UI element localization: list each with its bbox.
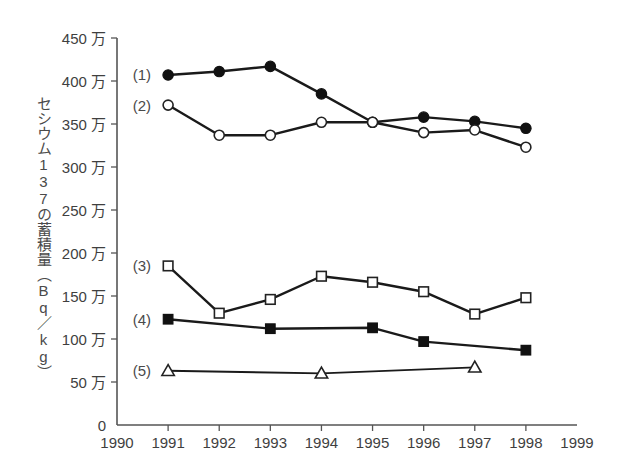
x-axis-tick-label: 1994 bbox=[305, 434, 338, 451]
marker-open-circle bbox=[316, 117, 326, 127]
caption-strip bbox=[0, 458, 630, 467]
x-axis-tick-label: 1998 bbox=[509, 434, 542, 451]
marker-open-square bbox=[214, 308, 224, 318]
marker-open-circle bbox=[163, 100, 173, 110]
x-axis-tick-label: 1991 bbox=[151, 434, 184, 451]
series-polyline bbox=[168, 319, 526, 350]
marker-open-circle bbox=[265, 130, 275, 140]
marker-open-square bbox=[163, 261, 173, 271]
marker-open-circle bbox=[470, 125, 480, 135]
marker-filled-circle bbox=[163, 70, 173, 80]
y-axis-tick-label: 100 万 bbox=[62, 331, 106, 348]
marker-open-circle bbox=[214, 130, 224, 140]
x-axis-tick-label: 1999 bbox=[560, 434, 593, 451]
chart-plot-area: 050 万100 万150 万200 万250 万300 万350 万400 万… bbox=[0, 0, 630, 467]
x-axis-tick-label: 1996 bbox=[407, 434, 440, 451]
series-3 bbox=[163, 261, 530, 319]
marker-open-square bbox=[521, 293, 531, 303]
x-axis-tick-label: 1992 bbox=[203, 434, 236, 451]
marker-open-square bbox=[470, 309, 480, 319]
legend-label-4: (4) bbox=[133, 311, 151, 328]
marker-filled-circle bbox=[521, 123, 531, 133]
legend-label-3: (3) bbox=[133, 257, 151, 274]
y-axis-tick-label: 400 万 bbox=[62, 73, 106, 90]
x-axis-tick-label: 1990 bbox=[100, 434, 133, 451]
marker-filled-square bbox=[163, 314, 173, 324]
chart-legend: (1)(2)(3)(4)(5) bbox=[133, 66, 151, 379]
y-axis-tick-group: 050 万100 万150 万200 万250 万300 万350 万400 万… bbox=[62, 30, 117, 434]
y-axis-tick-label: 450 万 bbox=[62, 30, 106, 47]
x-axis-tick-label: 1995 bbox=[356, 434, 389, 451]
legend-label-5: (5) bbox=[133, 362, 151, 379]
marker-filled-circle bbox=[418, 112, 428, 122]
marker-open-square bbox=[368, 277, 378, 287]
legend-label-2: (2) bbox=[133, 97, 151, 114]
y-axis-tick-label: 250 万 bbox=[62, 202, 106, 219]
y-axis-tick-label: 0 bbox=[98, 417, 106, 434]
legend-label-1: (1) bbox=[133, 66, 151, 83]
marker-filled-square bbox=[266, 324, 276, 334]
marker-open-square bbox=[317, 271, 327, 281]
marker-filled-circle bbox=[316, 89, 326, 99]
marker-open-circle bbox=[521, 142, 531, 152]
series-polyline bbox=[168, 266, 526, 314]
y-axis-tick-label: 200 万 bbox=[62, 245, 106, 262]
x-axis-tick-label: 1993 bbox=[254, 434, 287, 451]
chart-container: セシウム137の蓄積量（Bq／kg） 050 万100 万150 万200 万2… bbox=[0, 0, 630, 467]
y-axis-tick-label: 150 万 bbox=[62, 288, 106, 305]
marker-open-circle bbox=[419, 128, 429, 138]
marker-filled-circle bbox=[265, 61, 275, 71]
y-axis-tick-label: 50 万 bbox=[70, 374, 106, 391]
marker-filled-square bbox=[419, 337, 429, 347]
marker-filled-circle bbox=[214, 66, 224, 76]
series-5 bbox=[162, 361, 481, 378]
x-axis-tick-label: 1997 bbox=[458, 434, 491, 451]
marker-open-square bbox=[266, 295, 276, 305]
y-axis-tick-label: 350 万 bbox=[62, 116, 106, 133]
y-axis-tick-label: 300 万 bbox=[62, 159, 106, 176]
x-axis-tick-group: 1990199119921993199419951996199719981999 bbox=[100, 425, 593, 451]
series-4 bbox=[163, 314, 530, 355]
marker-open-square bbox=[419, 287, 429, 297]
data-series-layer bbox=[162, 61, 531, 378]
marker-filled-square bbox=[521, 345, 531, 355]
marker-filled-square bbox=[368, 323, 378, 333]
marker-open-circle bbox=[368, 117, 378, 127]
